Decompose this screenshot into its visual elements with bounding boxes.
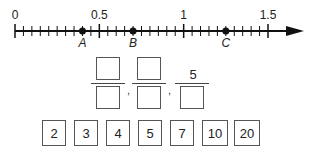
arrow-head-icon: [286, 26, 304, 36]
numerator-value: 5: [177, 67, 209, 82]
tick-label: 1: [180, 8, 187, 22]
point-b-marker: [130, 28, 137, 35]
tick-label: 1.5: [260, 8, 277, 22]
separator-comma: ,: [168, 84, 171, 96]
denominator-input-box[interactable]: [180, 86, 204, 109]
fraction-bar: [132, 83, 166, 84]
numerator-input-box[interactable]: [137, 57, 161, 80]
numerator-input-box[interactable]: [96, 57, 120, 80]
separator-comma: ,: [127, 84, 130, 96]
number-line: 00.511.5ABC: [0, 0, 321, 60]
point-b-label: B: [129, 36, 137, 50]
number-tile-3[interactable]: 3: [74, 120, 98, 146]
tick-label: 0.5: [91, 8, 108, 22]
tick-label: 0: [12, 8, 19, 22]
denominator-input-box[interactable]: [96, 86, 120, 109]
point-c-label: C: [221, 36, 230, 50]
number-tile-4[interactable]: 4: [106, 120, 130, 146]
number-tile-2[interactable]: 2: [42, 120, 66, 146]
point-c-marker: [222, 28, 229, 35]
number-tile-7[interactable]: 7: [170, 120, 194, 146]
point-a-marker: [79, 28, 86, 35]
denominator-input-box[interactable]: [137, 86, 161, 109]
fraction-bar: [175, 83, 209, 84]
number-tile-20[interactable]: 20: [234, 120, 260, 146]
number-tile-5[interactable]: 5: [138, 120, 162, 146]
number-tile-10[interactable]: 10: [202, 120, 228, 146]
point-a-label: A: [77, 36, 86, 50]
fraction-bar: [91, 83, 125, 84]
